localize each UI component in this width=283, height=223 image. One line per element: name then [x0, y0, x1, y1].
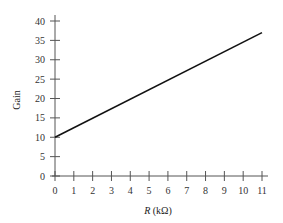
x-tick-label: 5 — [147, 185, 152, 196]
x-tick-label: 6 — [165, 185, 170, 196]
y-tick-label: 20 — [35, 93, 45, 104]
y-tick-label: 35 — [35, 35, 45, 46]
y-tick-label: 0 — [40, 171, 45, 182]
x-tick-label: 3 — [109, 185, 114, 196]
x-tick-label: 9 — [222, 185, 227, 196]
x-tick-label: 4 — [128, 185, 133, 196]
x-tick-label: 8 — [203, 185, 208, 196]
plot-area — [55, 33, 262, 138]
x-tick-label: 7 — [184, 185, 189, 196]
x-tick-label: 2 — [90, 185, 95, 196]
y-tick-label: 5 — [40, 151, 45, 162]
y-tick-label: 40 — [35, 16, 45, 27]
y-tick-label: 10 — [35, 132, 45, 143]
x-tick-label: 0 — [53, 185, 58, 196]
y-axis-label: Gain — [11, 90, 22, 109]
y-tick-label: 15 — [35, 112, 45, 123]
x-axis-label-var: R — [143, 205, 150, 216]
gain-vs-resistance-chart: 012345678910110510152025303540 Gain R (k… — [0, 0, 283, 223]
gain-line — [55, 33, 262, 138]
y-tick-label: 25 — [35, 74, 45, 85]
x-tick-label: 10 — [238, 185, 248, 196]
x-axis-label: R (kΩ) — [143, 205, 172, 217]
x-tick-label: 1 — [71, 185, 76, 196]
axes: 012345678910110510152025303540 — [35, 15, 268, 196]
y-tick-label: 30 — [35, 54, 45, 65]
x-axis-label-unit: (kΩ) — [150, 205, 172, 217]
x-tick-label: 11 — [257, 185, 267, 196]
